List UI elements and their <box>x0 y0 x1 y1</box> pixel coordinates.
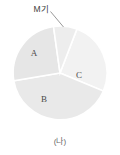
pie-slice-label-c: C <box>76 70 82 80</box>
callout-leader-line <box>51 12 64 28</box>
figure-caption: (나) <box>0 136 120 148</box>
pie-chart-figure: M기 A C B (나) <box>0 0 120 155</box>
pie-chart-svg: M기 A C B <box>0 0 120 140</box>
callout-label: M기 <box>33 4 48 14</box>
pie-slice-label-a: A <box>31 48 38 58</box>
pie-slice-label-b: B <box>41 94 47 104</box>
